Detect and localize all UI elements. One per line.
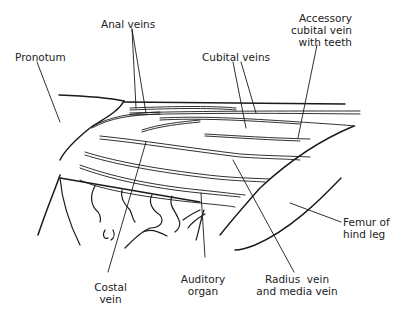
label-costal-vein: Costal vein (88, 281, 133, 305)
wing-diagram: Anal veins Pronotum Cubital veins Access… (0, 0, 401, 316)
label-cubital-veins: Cubital veins (202, 51, 270, 63)
label-accessory-cubital-vein: Accessory cubital vein with teeth (290, 12, 352, 48)
femur-outline (235, 178, 341, 250)
label-pronotum: Pronotum (15, 51, 66, 63)
label-anal-veins: Anal veins (101, 18, 155, 30)
wing-top-edge (124, 102, 345, 104)
wing-outline (60, 126, 354, 235)
label-femur-hind-leg: Femur of hind leg (343, 216, 390, 240)
label-radius-media-vein: Radius vein and media vein (252, 273, 342, 297)
label-auditory-organ: Auditory organ (175, 273, 231, 297)
